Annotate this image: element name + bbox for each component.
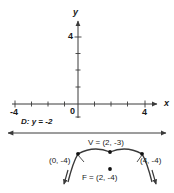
left-point-leader [78,155,84,162]
parabola-right-arrow [152,170,156,184]
y-axis-label: y [73,8,78,17]
y-tick-label-4: 4 [68,32,73,41]
directrix-label: D: y = -2 [21,118,52,126]
y-axis [75,21,82,118]
x-tick-label-4: 4 [142,108,147,117]
x-axis [12,101,157,108]
x-tick-label--4: -4 [10,108,18,117]
parabola-left-arrow [64,170,68,184]
focus-label: F = (2, -4) [82,174,117,182]
x-axis-label: x [164,99,169,108]
vertex-point [108,150,112,154]
left-point-label: (0, -4) [49,157,70,165]
vertex-label: V = (2, -3) [88,139,124,147]
parabola-graph-figure: y x -4 4 0 4 D: y = -2 V = (2, -3) (0, -… [0,0,174,193]
focus-point [108,167,112,171]
right-point-label: (4, -4) [140,157,161,165]
origin-label: 0 [70,107,75,116]
